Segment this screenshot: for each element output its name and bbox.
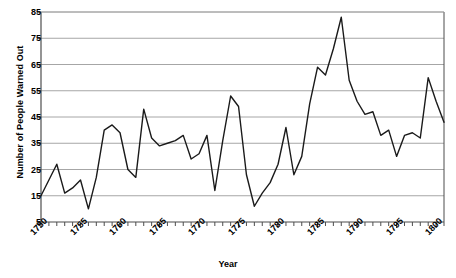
series-line-people-warned-out [41,17,444,209]
y-tick-label: 75 [21,33,41,43]
y-tick-label: 25 [21,165,41,175]
y-tick-label: 35 [21,138,41,148]
chart-container: Number of People Warned Out Year 5152535… [0,0,456,278]
x-axis-tick-labels: 1750175517601765177017751780178517901795… [0,230,456,274]
gridlines [41,12,444,196]
y-tick-label: 65 [21,60,41,70]
y-tick-label: 15 [21,191,41,201]
y-tick-label: 85 [21,7,41,17]
y-tick-label: 45 [21,112,41,122]
y-tick-label: 55 [21,86,41,96]
data-series [41,17,444,209]
